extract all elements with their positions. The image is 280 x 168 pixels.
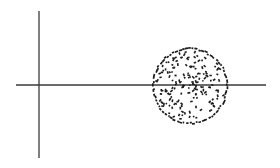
- diagram-canvas: [0, 0, 280, 168]
- dotted-circle-cluster: [152, 47, 228, 125]
